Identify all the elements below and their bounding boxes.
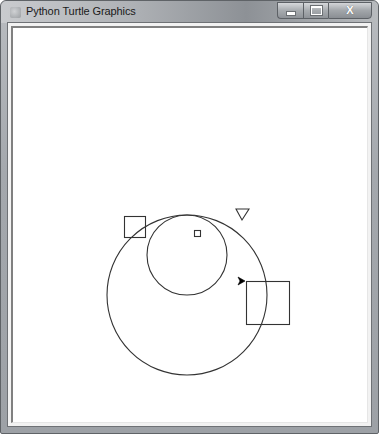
window-title: Python Turtle Graphics: [26, 5, 136, 17]
turtle-window: Python Turtle Graphics X: [0, 0, 379, 434]
turtle-canvas[interactable]: [11, 26, 368, 423]
close-button[interactable]: X: [328, 2, 372, 19]
turtle-cursor-icon: [238, 277, 245, 285]
large-square: [247, 282, 290, 325]
tiny-square: [195, 231, 201, 237]
drawing-surface: [11, 26, 368, 423]
close-icon: X: [346, 5, 353, 16]
caption-buttons: X: [277, 2, 372, 19]
small-circle: [147, 215, 227, 295]
title-bar[interactable]: Python Turtle Graphics X: [1, 1, 378, 23]
minimize-button[interactable]: [277, 2, 303, 19]
client-frame: [7, 22, 372, 427]
maximize-button[interactable]: [303, 2, 328, 19]
down-triangle: [236, 209, 249, 220]
maximize-icon: [311, 6, 322, 15]
minimize-icon: [286, 11, 296, 16]
app-icon: [10, 7, 21, 18]
